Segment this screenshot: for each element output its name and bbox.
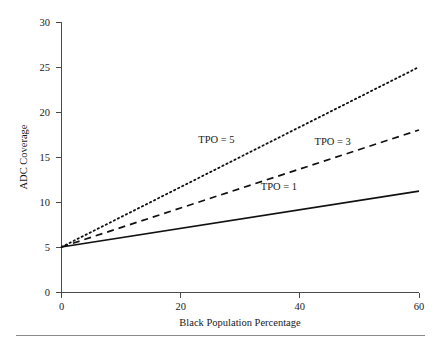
series-line-tpo-5	[62, 67, 420, 247]
x-tick-label-40: 40	[295, 301, 306, 312]
series-label-tpo-5: TPO = 5	[198, 134, 234, 145]
footer-rule	[16, 335, 425, 336]
y-tick-label-20: 20	[40, 107, 51, 118]
series-line-tpo-1	[62, 191, 420, 247]
y-tick-label-5: 5	[45, 242, 50, 253]
y-tick-label-10: 10	[40, 197, 51, 208]
y-axis-title: ADC Coverage	[18, 124, 29, 189]
x-tick-label-0: 0	[59, 301, 64, 312]
chart-figure: 30 25 20 15 10 5 0 0 20 40 60 ADC Covera…	[0, 0, 444, 348]
y-tick-label-15: 15	[40, 152, 51, 163]
line-chart-canvas: 30 25 20 15 10 5 0 0 20 40 60 ADC Covera…	[0, 0, 444, 348]
series-label-tpo-3: TPO = 3	[314, 136, 350, 147]
x-tick-label-20: 20	[175, 301, 186, 312]
series-label-tpo-1: TPO = 1	[261, 181, 297, 192]
x-tick-label-60: 60	[414, 301, 425, 312]
x-axis-title: Black Population Percentage	[179, 317, 301, 328]
series-line-tpo-3	[62, 130, 420, 247]
y-tick-label-30: 30	[40, 17, 51, 28]
y-tick-label-25: 25	[40, 62, 51, 73]
y-tick-label-0: 0	[45, 287, 50, 298]
